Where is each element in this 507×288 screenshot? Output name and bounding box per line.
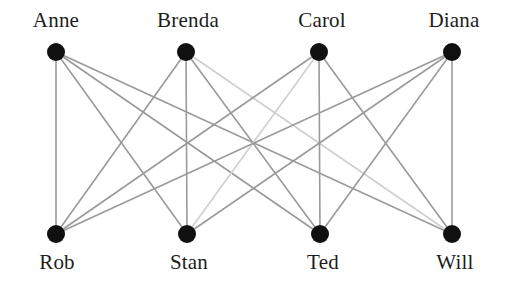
node-label-will: Will (436, 250, 473, 275)
graph-node-brenda (177, 43, 195, 61)
graph-node-ted (311, 225, 329, 243)
graph-node-will (443, 225, 461, 243)
graph-node-anne (47, 43, 65, 61)
node-label-stan: Stan (170, 250, 208, 275)
bipartite-graph-figure: AnneBrendaCarolDianaRobStanTedWill (0, 0, 507, 288)
graph-node-diana (443, 43, 461, 61)
node-label-ted: Ted (307, 250, 339, 275)
graph-node-carol (310, 43, 328, 61)
graph-node-stan (178, 225, 196, 243)
node-label-carol: Carol (298, 8, 346, 33)
node-label-diana: Diana (428, 8, 479, 33)
graph-node-rob (47, 225, 65, 243)
node-label-anne: Anne (33, 8, 79, 33)
node-label-brenda: Brenda (157, 8, 219, 33)
graph-canvas (0, 0, 507, 288)
edge-layer (56, 52, 452, 234)
node-label-rob: Rob (39, 250, 75, 275)
